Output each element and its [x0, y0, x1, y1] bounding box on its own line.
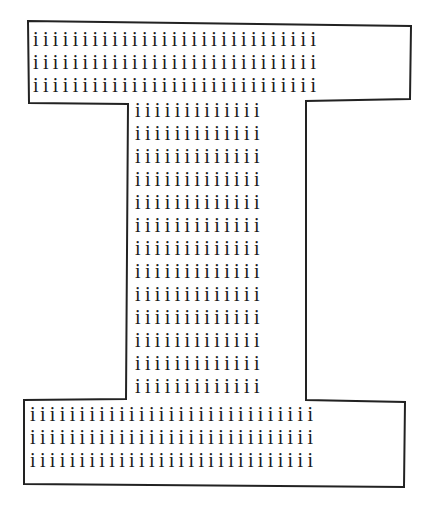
text-row: iiiiiiiiiiiii	[135, 330, 264, 350]
text-row: iiiiiiiiiiiiiiiiiiiiiiiiiiiii	[30, 427, 317, 447]
text-row: iiiiiiiiiiiiiiiiiiiiiiiiiiiii	[33, 52, 320, 72]
text-row: iiiiiiiiiiiii	[135, 100, 264, 120]
text-row: iiiiiiiiiiiiiiiiiiiiiiiiiiiii	[33, 29, 320, 49]
text-row: iiiiiiiiiiiiiiiiiiiiiiiiiiiii	[30, 404, 317, 424]
text-row: iiiiiiiiiiiii	[135, 353, 264, 373]
text-row: iiiiiiiiiiiii	[135, 169, 264, 189]
text-row: iiiiiiiiiiiii	[135, 215, 264, 235]
text-row: iiiiiiiiiiiii	[135, 146, 264, 166]
text-row: iiiiiiiiiiiii	[135, 261, 264, 281]
text-row: iiiiiiiiiiiii	[135, 123, 264, 143]
text-row: iiiiiiiiiiiii	[135, 376, 264, 396]
text-row: iiiiiiiiiiiii	[135, 192, 264, 212]
text-row: iiiiiiiiiiiiiiiiiiiiiiiiiiiii	[33, 75, 320, 95]
text-row: iiiiiiiiiiiiiiiiiiiiiiiiiiiii	[30, 450, 317, 470]
text-row: iiiiiiiiiiiii	[135, 284, 264, 304]
text-row: iiiiiiiiiiiii	[135, 238, 264, 258]
text-row: iiiiiiiiiiiii	[135, 307, 264, 327]
